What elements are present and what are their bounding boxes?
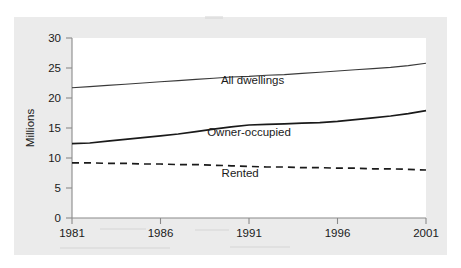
y-axis-title: Millions [24, 109, 36, 148]
series-label-all-dwellings: All dwellings [221, 74, 285, 86]
y-tick-label-25: 25 [48, 62, 61, 74]
chart-figure: 0 5 10 15 20 25 30 Millions 1981 1986 19… [0, 0, 461, 268]
y-tick-label-15: 15 [48, 122, 61, 134]
y-tick-label-20: 20 [48, 92, 61, 104]
x-tick-label-1981: 1981 [59, 227, 85, 239]
x-tick-label-1996: 1996 [325, 227, 351, 239]
line-chart: 0 5 10 15 20 25 30 Millions 1981 1986 19… [0, 0, 461, 268]
y-axis-ticks [66, 38, 72, 218]
x-tick-label-1986: 1986 [148, 227, 174, 239]
y-tick-label-0: 0 [55, 212, 61, 224]
y-tick-label-30: 30 [48, 32, 61, 44]
series-label-owner-occupied: Owner-occupied [207, 126, 291, 138]
x-tick-label-1991: 1991 [236, 227, 262, 239]
x-tick-label-2001: 2001 [413, 227, 439, 239]
x-axis-ticks [72, 218, 426, 224]
series-label-rented: Rented [222, 167, 259, 179]
y-tick-label-10: 10 [48, 152, 61, 164]
y-tick-label-5: 5 [55, 182, 61, 194]
